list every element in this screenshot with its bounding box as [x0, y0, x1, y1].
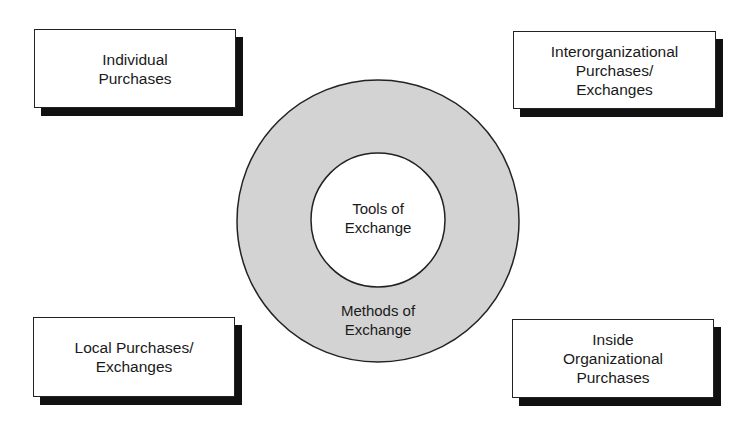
- box-label-line: Local Purchases/: [75, 338, 194, 357]
- box-label-line: Organizational: [563, 349, 663, 368]
- box-label-line: Purchases: [563, 368, 663, 387]
- box-individual-purchases: Individual Purchases: [34, 29, 236, 108]
- inner-label-line-1: Tools of: [318, 199, 438, 218]
- box-interorganizational-purchases: Interorganizational Purchases/ Exchanges: [513, 31, 716, 109]
- outer-ring-label: Methods of Exchange: [308, 301, 448, 339]
- box-local-purchases: Local Purchases/ Exchanges: [33, 317, 235, 397]
- outer-label-line-2: Exchange: [308, 320, 448, 339]
- box-label-line: Inside: [563, 330, 663, 349]
- box-label-line: Exchanges: [551, 80, 679, 99]
- box-label-line: Interorganizational: [551, 42, 679, 61]
- box-label-line: Purchases: [98, 69, 171, 88]
- box-label-line: Purchases/: [551, 61, 679, 80]
- outer-label-line-1: Methods of: [308, 301, 448, 320]
- inner-label-line-2: Exchange: [318, 218, 438, 237]
- box-label-line: Exchanges: [75, 357, 194, 376]
- box-inside-organizational-purchases: Inside Organizational Purchases: [512, 319, 714, 398]
- inner-circle-label: Tools of Exchange: [318, 199, 438, 237]
- box-label-line: Individual: [98, 50, 171, 69]
